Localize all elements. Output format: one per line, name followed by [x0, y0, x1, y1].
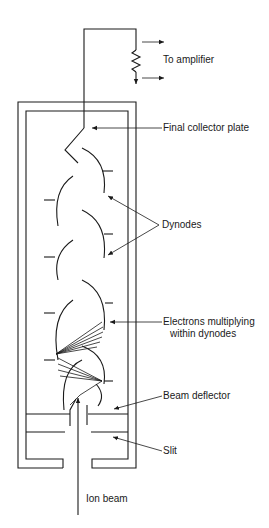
label-ion-beam: Ion beam: [86, 493, 128, 505]
housing: [18, 102, 136, 468]
resistor-icon: [132, 50, 140, 72]
label-electrons-multiplying: Electrons multiplying: [163, 316, 255, 328]
label-within-dynodes: within dynodes: [170, 328, 236, 340]
output-arrows: [142, 42, 164, 78]
label-dynodes: Dynodes: [162, 219, 201, 231]
dynodes: [44, 148, 113, 410]
beam-deflector: [26, 399, 128, 426]
collector-wire: [84, 29, 140, 128]
leader-lines: [92, 128, 162, 451]
label-to-amplifier: To amplifier: [163, 54, 214, 66]
label-final-collector-plate: Final collector plate: [163, 122, 249, 134]
label-slit: Slit: [163, 445, 177, 457]
electron-multiplier-diagram: [0, 0, 269, 528]
final-collector-plate: [65, 128, 84, 163]
label-beam-deflector: Beam deflector: [163, 390, 230, 402]
